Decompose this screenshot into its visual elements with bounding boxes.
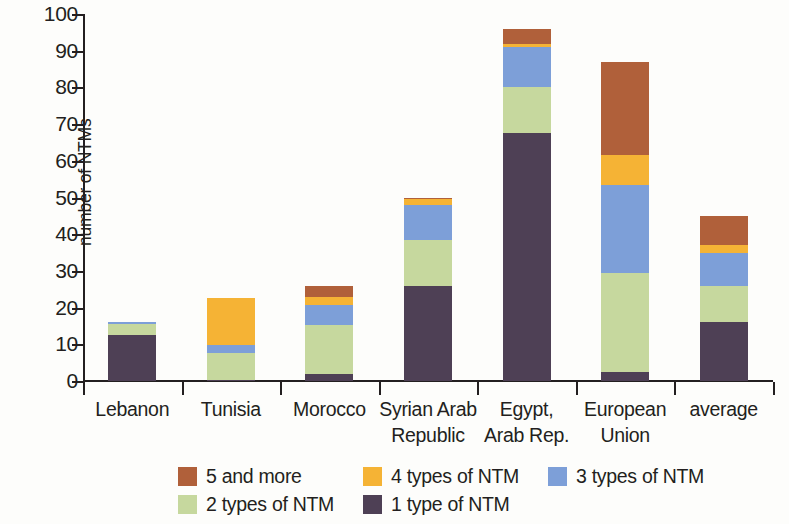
bar-segment [700,286,748,323]
x-axis-label: Egypt,Arab Rep. [477,396,576,448]
legend-color-swatch [178,467,197,486]
bar-stack [601,62,649,381]
legend-label: 2 types of NTM [206,494,334,514]
x-tick-mark [576,382,578,395]
bar-segment [601,62,649,156]
x-axis-label: Tunisia [182,396,281,422]
bar-segment [601,273,649,372]
x-tick-mark [379,382,381,395]
x-axis-label-line: Egypt, [477,396,576,422]
bar-group [503,14,551,381]
y-tick-label: 80 [55,75,78,99]
legend-item[interactable]: 5 and more [178,466,302,486]
x-tick-mark [477,382,479,395]
bar-segment [207,380,255,381]
bar-segment [700,245,748,252]
bar-stack [503,29,551,381]
x-axis-label-line: Morocco [280,396,379,422]
bar-segment [305,305,353,325]
x-axis-ticks [83,382,773,396]
bar-segment [503,47,551,87]
bar-segment [503,87,551,133]
legend-item[interactable]: 1 type of NTM [363,494,510,514]
legend-color-swatch [178,495,197,514]
bar-segment [601,155,649,184]
bar-stack [404,198,452,381]
bar-group [207,14,255,381]
x-axis-label-line: Union [576,422,675,448]
x-axis-label: average [674,396,773,422]
bar-group [305,14,353,381]
bar-segment [700,253,748,286]
x-axis-label-line: Arab Rep. [477,422,576,448]
stacked-bar-chart: 0102030405060708090100 number of NTMs Le… [0,0,789,524]
x-axis-label-line: average [674,396,773,422]
legend-label: 1 type of NTM [391,494,510,514]
bar-segment [404,205,452,240]
bar-segment [503,29,551,45]
y-tick-label: 100 [44,2,78,26]
x-axis-label: Morocco [280,396,379,422]
y-tick-label: 20 [55,296,78,320]
bar-segment [404,286,452,381]
bar-segment [503,133,551,381]
x-axis-label-line: Tunisia [182,396,281,422]
x-axis-label-line: Republic [379,422,478,448]
chart-legend: 5 and more4 types of NTM3 types of NTM2 … [178,466,678,518]
bar-group [601,14,649,381]
legend-color-swatch [363,495,382,514]
legend-label: 4 types of NTM [391,466,519,486]
bar-segment [404,240,452,286]
x-tick-mark [182,382,184,395]
bar-stack [700,216,748,381]
y-tick-label: 0 [67,369,78,393]
x-axis-label-line: Lebanon [83,396,182,422]
bar-stack [305,286,353,381]
bar-segment [700,216,748,245]
bar-segment [601,185,649,273]
bar-segment [305,325,353,375]
bar-stack [108,322,156,381]
bar-segment [207,298,255,346]
x-axis-labels: LebanonTunisiaMoroccoSyrian ArabRepublic… [83,396,773,458]
legend-item[interactable]: 3 types of NTM [548,466,704,486]
legend-color-swatch [363,467,382,486]
bar-segment [207,345,255,353]
x-tick-mark [674,382,676,395]
x-axis-label-line: Syrian Arab [379,396,478,422]
bar-segment [305,374,353,381]
bar-group [108,14,156,381]
bar-group [404,14,452,381]
bar-group [700,14,748,381]
bars-layer [83,14,773,381]
x-tick-mark [773,382,775,395]
x-axis-label: Syrian ArabRepublic [379,396,478,448]
bar-segment [305,286,353,298]
bar-segment [108,324,156,335]
legend-item[interactable]: 4 types of NTM [363,466,519,486]
x-axis-label-line: European [576,396,675,422]
y-tick-label: 30 [55,259,78,283]
bar-segment [700,322,748,381]
bar-segment [305,297,353,304]
bar-segment [207,353,255,379]
bar-segment [108,335,156,381]
x-axis-label: Lebanon [83,396,182,422]
x-tick-mark [280,382,282,395]
x-axis-label: EuropeanUnion [576,396,675,448]
y-tick-label: 90 [55,39,78,63]
legend-label: 5 and more [206,466,302,486]
bar-stack [207,298,255,381]
y-tick-label: 10 [55,332,78,356]
legend-item[interactable]: 2 types of NTM [178,494,334,514]
x-tick-mark [83,382,85,395]
legend-color-swatch [548,467,567,486]
legend-label: 3 types of NTM [576,466,704,486]
bar-segment [601,372,649,381]
